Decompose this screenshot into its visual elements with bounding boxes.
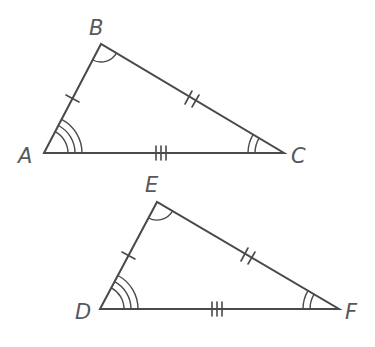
tick-ab: [66, 95, 79, 102]
triangle-abc: [44, 44, 284, 160]
triangle-def-outline: [100, 202, 339, 309]
tick-de: [122, 252, 135, 259]
triangle-def: [100, 202, 339, 316]
congruent-triangles-diagram: [0, 0, 375, 347]
vertex-label-d: D: [75, 302, 91, 323]
vertex-label-c: C: [291, 146, 306, 167]
vertex-label-b: B: [89, 18, 103, 39]
vertex-label-e: E: [145, 175, 158, 196]
vertex-label-a: A: [18, 146, 32, 167]
vertex-label-f: F: [345, 302, 357, 323]
triangle-abc-outline: [44, 44, 284, 153]
